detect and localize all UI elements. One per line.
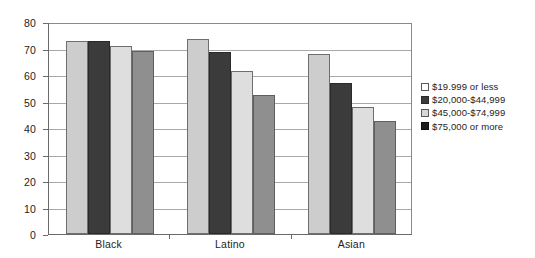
y-axis-tick-mark: [43, 235, 48, 236]
y-axis-tick-mark: [43, 182, 48, 183]
y-axis-tick-mark: [43, 129, 48, 130]
bar-black-series-1: [88, 41, 110, 234]
legend-item-label: $45,000-$74,999: [432, 107, 505, 118]
x-axis-tick-mark: [169, 235, 170, 239]
legend-item-label: $19.999 or less: [432, 81, 498, 92]
y-axis-tick-mark: [43, 50, 48, 51]
y-axis-tick-label: 60: [0, 70, 36, 82]
legend-item: $45,000-$74,999: [421, 106, 535, 119]
bar-asian-series-1: [330, 83, 352, 234]
legend-item: $19.999 or less: [421, 80, 535, 93]
bar-asian-series-2: [352, 107, 374, 234]
y-axis-tick-mark: [43, 103, 48, 104]
x-axis: BlackLatinoAsian: [48, 238, 412, 258]
y-axis-tick-label: 70: [0, 44, 36, 56]
legend-item: $75,000 or more: [421, 120, 535, 133]
legend-swatch-icon: [421, 109, 429, 117]
plot-area: [48, 23, 412, 235]
y-axis-tick-label: 40: [0, 123, 36, 135]
y-axis: 01020304050607080: [0, 0, 42, 258]
y-axis-tick-mark: [43, 23, 48, 24]
bar-asian-series-0: [308, 54, 330, 234]
chart-legend: $19.999 or less$20,000-$44,999$45,000-$7…: [421, 80, 535, 133]
legend-swatch-icon: [421, 122, 429, 130]
bar-latino-series-0: [187, 39, 209, 234]
y-axis-tick-mark: [43, 76, 48, 77]
y-axis-tick-label: 50: [0, 97, 36, 109]
legend-item-label: $75,000 or more: [432, 121, 503, 132]
y-axis-tick-mark: [43, 209, 48, 210]
y-axis-tick-label: 80: [0, 17, 36, 29]
x-axis-tick-label: Asian: [291, 238, 412, 250]
y-axis-tick-label: 10: [0, 203, 36, 215]
y-axis-tick-label: 20: [0, 176, 36, 188]
y-axis-tick-label: 0: [0, 229, 36, 241]
x-axis-tick-label: Latino: [169, 238, 290, 250]
bar-black-series-2: [110, 46, 132, 234]
bar-latino-series-3: [253, 95, 275, 234]
bar-black-series-3: [132, 51, 154, 234]
bar-asian-series-3: [374, 121, 396, 234]
y-axis-tick-label: 30: [0, 150, 36, 162]
legend-item-label: $20,000-$44,999: [432, 94, 505, 105]
y-axis-tick-mark: [43, 156, 48, 157]
bar-chart-figure: 01020304050607080 BlackLatinoAsian $19.9…: [0, 0, 535, 258]
bar-latino-series-1: [209, 52, 231, 234]
x-axis-tick-mark: [291, 235, 292, 239]
x-axis-tick-label: Black: [48, 238, 169, 250]
bar-latino-series-2: [231, 71, 253, 234]
bar-black-series-0: [66, 41, 88, 234]
legend-swatch-icon: [421, 83, 429, 91]
legend-swatch-icon: [421, 96, 429, 104]
legend-item: $20,000-$44,999: [421, 93, 535, 106]
